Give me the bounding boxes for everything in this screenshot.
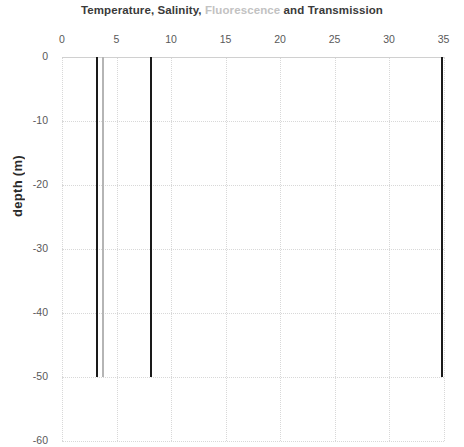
gridline-y--60 [62, 441, 444, 442]
x-tick-label-30: 30 [369, 33, 409, 45]
gridline-x-35 [444, 57, 445, 441]
gridline-y--30 [62, 249, 444, 250]
gridline-y-0 [62, 57, 444, 58]
x-tick-label-15: 15 [206, 33, 246, 45]
x-tick-label-0: 0 [42, 33, 82, 45]
series-line-fluorescence [102, 57, 104, 377]
x-tick-label-5: 5 [97, 33, 137, 45]
series-line-transmission [441, 57, 443, 377]
y-tick-label--40: -40 [0, 306, 48, 318]
y-tick-label-0: 0 [0, 50, 48, 62]
gridline-y--10 [62, 121, 444, 122]
chart-title-part-1: Temperature, Salinity, [81, 4, 205, 16]
x-tick-label-10: 10 [151, 33, 191, 45]
y-tick-label--30: -30 [0, 242, 48, 254]
x-tick-label-20: 20 [260, 33, 300, 45]
y-tick-label--20: -20 [0, 178, 48, 190]
gridline-y--20 [62, 185, 444, 186]
y-tick-label--10: -10 [0, 114, 48, 126]
chart-title: Temperature, Salinity, Fluorescence and … [0, 4, 464, 16]
series-line-temperature [96, 57, 98, 377]
gridline-y--40 [62, 313, 444, 314]
x-tick-label-35: 35 [424, 33, 464, 45]
series-line-salinity [150, 57, 152, 377]
x-tick-label-25: 25 [315, 33, 355, 45]
plot-area [62, 57, 444, 441]
gridline-y--50 [62, 377, 444, 378]
y-tick-label--60: -60 [0, 434, 48, 446]
y-tick-label--50: -50 [0, 370, 48, 382]
chart-title-part-3: and Transmission [280, 4, 383, 16]
chart-title-part-fluorescence: Fluorescence [205, 4, 280, 16]
depth-profile-chart: Temperature, Salinity, Fluorescence and … [0, 0, 464, 447]
